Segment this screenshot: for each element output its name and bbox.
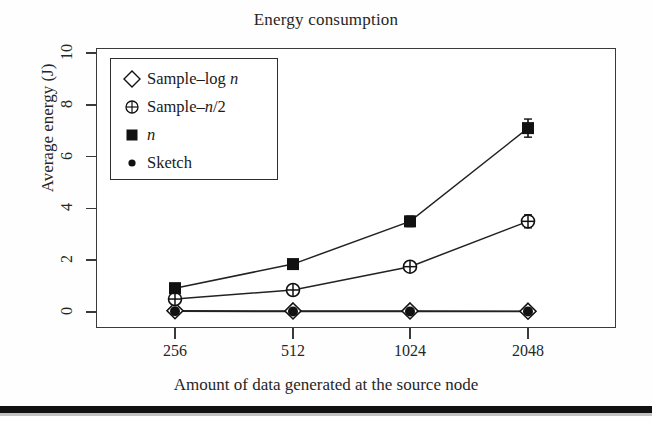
data-point-filled-circle xyxy=(170,306,180,316)
x-tick-mark xyxy=(527,328,529,339)
y-tick-mark xyxy=(86,156,96,158)
legend-marker xyxy=(121,153,143,173)
data-point-circle-plus xyxy=(287,283,300,296)
filled-square-icon xyxy=(121,125,143,145)
legend: Sample–log nSample–n/2nSketch xyxy=(110,58,278,180)
legend-item: Sample–n/2 xyxy=(111,93,277,121)
y-tick-mark xyxy=(86,208,96,210)
legend-marker xyxy=(121,125,143,145)
y-tick-mark xyxy=(86,259,96,261)
bottom-rule xyxy=(0,406,652,413)
legend-marker xyxy=(121,69,143,89)
legend-marker xyxy=(121,97,143,117)
y-tick-mark xyxy=(86,311,96,313)
bottom-rule-shadow xyxy=(0,413,652,416)
data-point-filled-square xyxy=(522,122,534,134)
circle-plus-icon xyxy=(121,97,143,117)
x-tick-label: 256 xyxy=(140,342,210,360)
chart-page: Energy consumption Average energy (J) 02… xyxy=(0,0,652,421)
y-tick-label: 6 xyxy=(58,141,76,171)
x-tick-label: 512 xyxy=(258,342,328,360)
x-axis-title: Amount of data generated at the source n… xyxy=(0,375,652,395)
legend-label: Sketch xyxy=(143,153,192,173)
y-tick-mark xyxy=(86,104,96,106)
x-tick-mark xyxy=(174,328,176,339)
y-axis-title: Average energy (J) xyxy=(38,18,58,238)
chart-title: Energy consumption xyxy=(0,10,652,30)
x-tick-label: 1024 xyxy=(375,342,445,360)
y-tick-label: 10 xyxy=(58,37,76,67)
y-tick-label: 8 xyxy=(58,89,76,119)
legend-item: Sample–log n xyxy=(111,65,277,93)
data-point-circle-plus xyxy=(522,215,535,228)
data-point-circle-plus xyxy=(404,260,417,273)
y-tick-label: 2 xyxy=(58,244,76,274)
legend-item: n xyxy=(111,121,277,149)
y-tick-label: 0 xyxy=(58,296,76,326)
open-diamond-icon xyxy=(121,69,143,89)
x-tick-label: 2048 xyxy=(493,342,563,360)
filled-circle-icon xyxy=(121,153,143,173)
data-point-filled-square xyxy=(404,215,416,227)
x-tick-mark xyxy=(409,328,411,339)
series-line-sample-n-2 xyxy=(175,221,528,299)
data-point-filled-circle xyxy=(523,306,533,316)
legend-label: Sample–log n xyxy=(143,69,238,89)
legend-label: Sample–n/2 xyxy=(143,97,226,117)
data-point-filled-square xyxy=(169,282,181,294)
y-tick-label: 4 xyxy=(58,192,76,222)
legend-label: n xyxy=(143,125,155,145)
data-point-filled-circle xyxy=(288,306,298,316)
legend-item: Sketch xyxy=(111,149,277,177)
y-tick-mark xyxy=(86,52,96,54)
data-point-filled-square xyxy=(287,258,299,270)
data-point-filled-circle xyxy=(405,306,415,316)
x-tick-mark xyxy=(292,328,294,339)
data-point-circle-plus xyxy=(169,293,182,306)
